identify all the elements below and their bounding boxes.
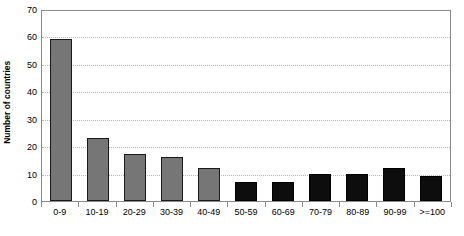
y-axis-title-text: Number of countries: [4, 61, 13, 144]
x-axis-tick: [78, 202, 79, 207]
x-axis-tick: [153, 202, 154, 207]
y-axis-tick-labels: 010203040506070: [16, 0, 40, 205]
bar-slot: [376, 11, 413, 201]
x-axis-tick-label: 90-99: [376, 208, 413, 218]
x-axis-tick-label: 50-59: [227, 208, 264, 218]
bar-slot: [413, 11, 450, 201]
bar-slot: [79, 11, 116, 201]
bar[interactable]: [309, 174, 331, 201]
x-axis-tick-label: 40-49: [190, 208, 227, 218]
x-axis-tick: [265, 202, 266, 207]
y-axis-title: Number of countries: [0, 0, 16, 205]
bar-slot: [153, 11, 190, 201]
bar-slot: [339, 11, 376, 201]
x-axis-tick-labels: 0-910-1920-2930-3940-4950-5960-6970-7980…: [41, 208, 451, 224]
bar-slot: [190, 11, 227, 201]
bar[interactable]: [272, 182, 294, 201]
x-axis-tick-label: 70-79: [302, 208, 339, 218]
y-axis-tick-label: 30: [27, 115, 37, 124]
x-axis-tick-label: 30-39: [153, 208, 190, 218]
bar[interactable]: [383, 168, 405, 201]
x-axis-tick-label: 10-19: [78, 208, 115, 218]
y-axis-tick-label: 40: [27, 88, 37, 97]
bar-slot: [227, 11, 264, 201]
bar-slot: [265, 11, 302, 201]
y-axis-tick-label: 50: [27, 60, 37, 69]
x-axis-tick: [302, 202, 303, 207]
y-axis-tick-label: 70: [27, 6, 37, 15]
x-axis-tick: [41, 202, 42, 207]
x-axis-tick-label: 60-69: [265, 208, 302, 218]
bar-slot: [302, 11, 339, 201]
x-axis-tick: [227, 202, 228, 207]
y-axis-tick-label: 10: [27, 170, 37, 179]
x-axis-tick-label: >=100: [414, 208, 451, 218]
bar[interactable]: [420, 176, 442, 201]
plot-area: [41, 10, 451, 202]
y-axis-tick-label: 0: [32, 198, 37, 207]
y-axis-tick-label: 60: [27, 33, 37, 42]
bar[interactable]: [50, 39, 72, 201]
x-axis-tick-label: 20-29: [116, 208, 153, 218]
y-axis-tick-label: 20: [27, 143, 37, 152]
bar[interactable]: [346, 174, 368, 201]
x-axis-tick-label: 80-89: [339, 208, 376, 218]
x-axis-tick: [414, 202, 415, 207]
x-axis-tick: [116, 202, 117, 207]
bar[interactable]: [124, 154, 146, 201]
bar[interactable]: [198, 168, 220, 201]
bar-chart-figure: Number of countries 010203040506070 0-91…: [0, 0, 464, 236]
bar[interactable]: [235, 182, 257, 201]
x-axis-tick-label: 0-9: [41, 208, 78, 218]
x-axis-tick: [190, 202, 191, 207]
x-axis-tick: [376, 202, 377, 207]
bar-slot: [42, 11, 79, 201]
bar-slot: [116, 11, 153, 201]
x-axis-tick: [339, 202, 340, 207]
bars-layer: [42, 11, 450, 201]
bar[interactable]: [87, 138, 109, 201]
x-axis-tick: [451, 202, 452, 207]
bar[interactable]: [161, 157, 183, 201]
